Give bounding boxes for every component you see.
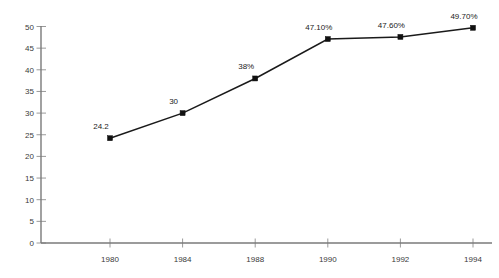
y-axis-tick-label: 20	[25, 152, 34, 161]
data-point-marker	[471, 25, 476, 30]
data-point-label: 47.60%	[378, 21, 405, 30]
line-chart: 05101520253035404550 1980198419881990199…	[0, 0, 499, 278]
x-axis-tick-label: 1980	[101, 255, 119, 264]
chart-background	[0, 0, 499, 278]
x-axis-tick-label: 1994	[464, 255, 482, 264]
y-axis-tick-label: 40	[25, 66, 34, 75]
y-axis-tick-label: 35	[25, 87, 34, 96]
data-point-label: 24.2	[93, 122, 109, 131]
data-point-marker	[108, 136, 113, 141]
data-point-marker	[398, 34, 403, 39]
y-axis-tick-label: 25	[25, 131, 34, 140]
data-point-label: 47.10%	[305, 23, 332, 32]
y-axis-tick-label: 15	[25, 174, 34, 183]
data-point-label: 49.70%	[450, 12, 477, 21]
data-point-marker	[180, 111, 185, 116]
y-axis-tick-label: 0	[30, 239, 35, 248]
data-point-marker	[253, 76, 258, 81]
y-axis-tick-label: 10	[25, 196, 34, 205]
y-axis-tick-label: 30	[25, 109, 34, 118]
x-axis-tick-label: 1988	[246, 255, 264, 264]
x-axis-tick-label: 1990	[319, 255, 337, 264]
y-axis-tick-label: 5	[30, 217, 35, 226]
y-axis-tick-label: 50	[25, 23, 34, 32]
y-axis-tick-label: 45	[25, 44, 34, 53]
data-point-label: 38%	[238, 62, 254, 71]
data-point-label: 30	[169, 97, 178, 106]
x-axis-tick-label: 1992	[392, 255, 410, 264]
data-point-marker	[325, 37, 330, 42]
chart-canvas: 05101520253035404550 1980198419881990199…	[0, 0, 499, 278]
x-axis-tick-label: 1984	[174, 255, 192, 264]
